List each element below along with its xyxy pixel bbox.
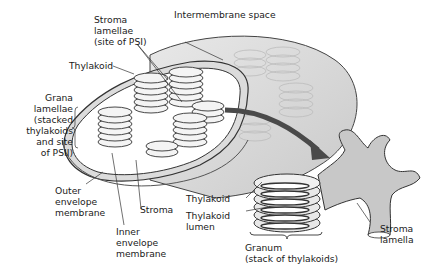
- label-thylakoid-detail: Thylakoid: [186, 193, 230, 204]
- chloroplast-diagram: Stroma lamellae (site of PSI) Intermembr…: [0, 0, 435, 277]
- label-grana-lamellae: Grana lamellae (stacked thylakoids and s…: [15, 92, 73, 158]
- granum-detail: [250, 174, 322, 239]
- label-granum: Granum (stack of thylakoids): [245, 242, 338, 264]
- label-stroma: Stroma: [140, 204, 173, 215]
- label-stroma-lamella: Stroma lamella: [380, 223, 414, 245]
- label-stroma-lamellae: Stroma lamellae (site of PSI): [94, 14, 147, 47]
- label-intermembrane-space: Intermembrane space: [174, 9, 276, 20]
- label-inner-envelope-membrane: Inner envelope membrane: [116, 226, 166, 259]
- label-thylakoid-lumen: Thylakoid lumen: [186, 210, 230, 232]
- label-outer-envelope-membrane: Outer envelope membrane: [55, 185, 105, 218]
- label-thylakoid-top: Thylakoid: [69, 60, 113, 71]
